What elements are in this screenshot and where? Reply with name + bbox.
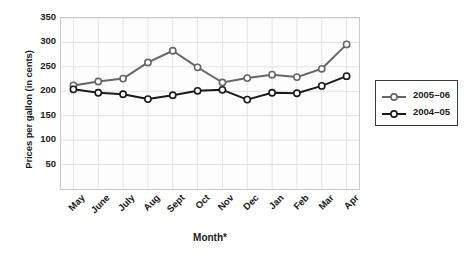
chart-legend: 2005–062004–05	[375, 80, 458, 126]
data-point-marker	[95, 78, 101, 84]
x-axis-title: Month*	[60, 232, 360, 243]
data-point-marker	[219, 87, 225, 93]
data-point-marker	[170, 92, 176, 98]
y-tick-label: 50	[22, 159, 56, 169]
y-axis-tick-labels: 50100150200250300350	[22, 12, 56, 194]
y-tick-label: 300	[22, 36, 56, 46]
data-point-marker	[294, 90, 300, 96]
data-point-marker	[294, 74, 300, 80]
legend-marker-icon	[381, 106, 407, 118]
plot-area	[60, 17, 360, 190]
data-point-marker	[145, 59, 151, 65]
y-tick-label: 200	[22, 85, 56, 95]
data-point-marker	[269, 90, 275, 96]
y-tick-label: 250	[22, 61, 56, 71]
data-point-marker	[170, 48, 176, 54]
y-tick-label: 150	[22, 110, 56, 120]
data-point-marker	[95, 90, 101, 96]
data-point-marker	[269, 72, 275, 78]
data-point-marker	[319, 66, 325, 72]
data-point-marker	[244, 96, 250, 102]
legend-marker-icon	[381, 89, 407, 101]
legend-label: 2004–05	[413, 106, 450, 117]
y-tick-label: 350	[22, 12, 56, 22]
x-axis-tick-labels: MayJuneJulyAugSeptOctNovDecJanFebMarApr	[60, 192, 360, 228]
data-point-marker	[145, 96, 151, 102]
data-point-marker	[244, 75, 250, 81]
data-point-marker	[343, 41, 349, 47]
line-chart-figure: Prices per gallon (in cents) 50100150200…	[0, 0, 468, 261]
data-point-marker	[70, 86, 76, 92]
data-point-marker	[194, 88, 200, 94]
y-tick-label: 100	[22, 134, 56, 144]
data-point-marker	[319, 83, 325, 89]
data-point-marker	[219, 79, 225, 85]
plot-canvas	[61, 18, 359, 189]
data-point-marker	[120, 91, 126, 97]
data-point-marker	[194, 64, 200, 70]
data-point-marker	[120, 75, 126, 81]
data-point-marker	[343, 73, 349, 79]
legend-label: 2005–06	[413, 89, 450, 100]
legend-item: 2005–06	[381, 86, 450, 103]
legend-item: 2004–05	[381, 103, 450, 120]
series-line-0	[73, 44, 346, 85]
